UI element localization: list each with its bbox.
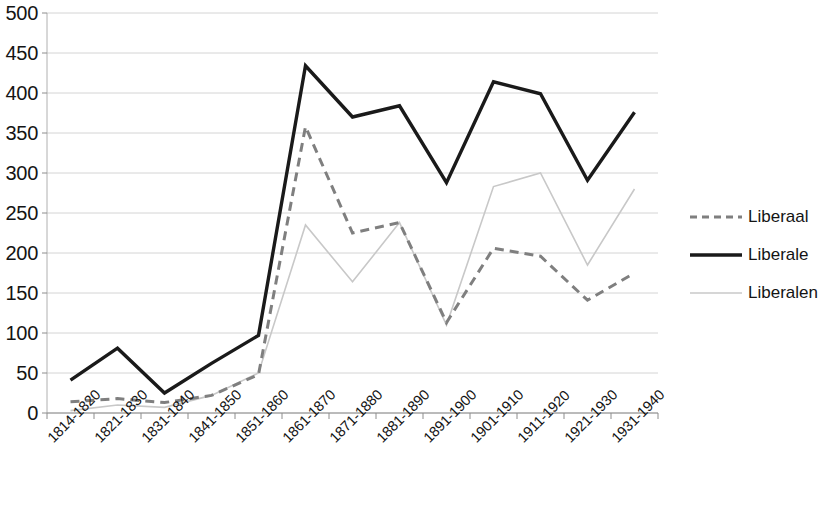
- series-line-liberalen: [71, 173, 635, 411]
- y-tick-label: 350: [0, 123, 38, 143]
- y-tick-label: 500: [0, 3, 38, 23]
- legend-key-thin-icon: [690, 286, 742, 300]
- legend-label-liberale: Liberale: [742, 245, 809, 265]
- line-chart: 050100150200250300350400450500 1814-1820…: [0, 0, 820, 510]
- legend-label-liberaal: Liberaal: [742, 207, 809, 227]
- chart-legend: Liberaal Liberale Liberalen: [690, 198, 820, 312]
- legend-item-liberalen: Liberalen: [690, 274, 820, 312]
- y-tick-label: 200: [0, 243, 38, 263]
- y-tick-label: 50: [0, 363, 38, 383]
- y-tick-label: 0: [0, 403, 38, 423]
- y-tick-label: 100: [0, 323, 38, 343]
- legend-item-liberale: Liberale: [690, 236, 820, 274]
- gridlines: [47, 13, 658, 413]
- y-tick-label: 400: [0, 83, 38, 103]
- legend-key-dashed-icon: [690, 210, 742, 224]
- legend-label-liberalen: Liberalen: [742, 283, 818, 303]
- y-tick-label: 150: [0, 283, 38, 303]
- series-line-liberaal: [71, 127, 635, 403]
- y-tick-label: 450: [0, 43, 38, 63]
- data-series-layer: [71, 66, 635, 411]
- legend-key-solid-icon: [690, 248, 742, 262]
- y-tick-label: 300: [0, 163, 38, 183]
- y-tick-label: 250: [0, 203, 38, 223]
- legend-item-liberaal: Liberaal: [690, 198, 820, 236]
